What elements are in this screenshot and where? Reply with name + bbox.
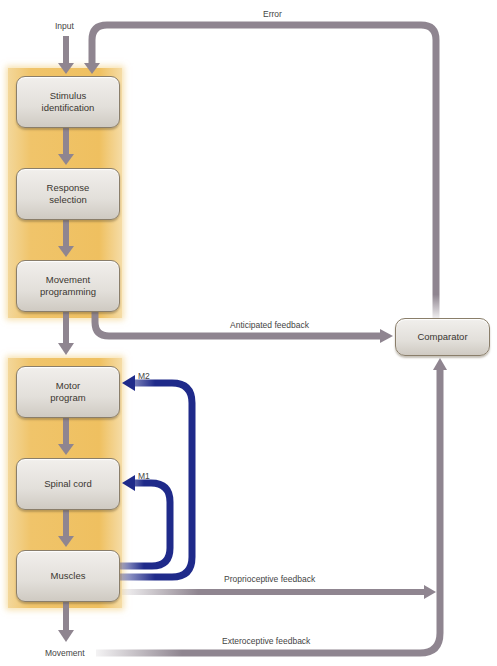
proprioceptive-feedback-label: Proprioceptive feedback (224, 574, 315, 584)
comparator-box: Comparator (395, 318, 490, 356)
movement-label: Movement (45, 648, 85, 658)
muscles-box: Muscles (16, 550, 120, 602)
motor-program-box: Motor program (16, 366, 120, 418)
programming-to-motor-arrow (58, 310, 74, 355)
spinal-cord-box: Spinal cord (16, 458, 120, 510)
exteroceptive-feedback-arrow (96, 358, 447, 653)
exteroceptive-feedback-label: Exteroceptive feedback (222, 636, 310, 646)
m1-label: M1 (138, 471, 150, 481)
spinal-to-muscles-arrow (58, 508, 74, 547)
m1-reflex-arrow (118, 475, 170, 566)
error-label: Error (263, 9, 282, 19)
muscles-to-movement-arrow (58, 600, 74, 642)
response-selection-box: Response selection (16, 168, 120, 220)
input-arrow (58, 36, 74, 74)
motor-to-spinal-arrow (58, 416, 74, 455)
error-arrow (84, 25, 436, 318)
stimulus-to-response-arrow (58, 126, 74, 165)
proprioceptive-feedback-arrow (122, 585, 436, 599)
input-label: Input (55, 21, 74, 31)
response-to-programming-arrow (58, 218, 74, 257)
stimulus-identification-box: Stimulus identification (16, 76, 120, 128)
m2-label: M2 (138, 371, 150, 381)
m2-reflex-arrow (118, 375, 192, 577)
anticipated-feedback-label: Anticipated feedback (230, 320, 309, 330)
movement-programming-box: Movement programming (16, 260, 120, 312)
